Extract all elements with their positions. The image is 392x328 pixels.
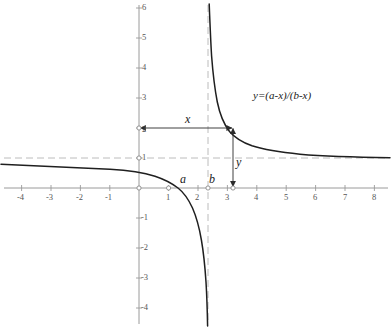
ytick-label-5: 5 [142, 32, 146, 42]
ytick-label--2: -2 [141, 242, 148, 252]
marker-x-1 [167, 186, 171, 190]
xtick-label-4: 4 [254, 192, 258, 202]
xtick-label-7: 7 [343, 192, 347, 202]
ytick-label-3: 3 [142, 92, 146, 102]
xtick-label--1: -1 [105, 192, 112, 202]
curve-right-branch [209, 4, 390, 158]
function-formula-label: y=(a-x)/(b-x) [253, 89, 311, 101]
xtick-label-6: 6 [313, 192, 317, 202]
xtick-label-1: 1 [166, 192, 170, 202]
xtick-label--2: -2 [76, 192, 83, 202]
ytick-label-4: 4 [142, 62, 146, 72]
marker-y-1 [137, 156, 141, 160]
function-graph-figure: -4 -3 -2 -1 1 2 3 4 5 6 7 8 6 5 4 3 2 1 … [0, 0, 392, 328]
ytick-label--3: -3 [141, 272, 148, 282]
xtick-label--4: -4 [17, 192, 24, 202]
xtick-label-5: 5 [284, 192, 288, 202]
ytick-label-6: 6 [142, 2, 146, 12]
marker-origin [137, 186, 141, 190]
xtick-label-8: 8 [372, 192, 376, 202]
xtick-label-2: 2 [195, 192, 199, 202]
curve-left-branch [1, 164, 208, 326]
asymptotes-group [4, 5, 388, 324]
measurement-arrows-group [141, 128, 234, 187]
y-measure-label: y [236, 155, 241, 170]
a-parameter-label: a [180, 172, 186, 187]
marker-y-2 [137, 126, 141, 130]
ytick-label-2: 2 [142, 124, 146, 134]
ytick-label-1: 1 [142, 152, 146, 162]
axes-group [4, 5, 388, 324]
marker-x-point [231, 186, 235, 190]
x-measure-label: x [185, 112, 190, 127]
xtick-label-3: 3 [225, 192, 229, 202]
graph-canvas [0, 0, 392, 328]
b-parameter-label: b [209, 172, 215, 187]
xtick-label--3: -3 [46, 192, 53, 202]
ytick-label--4: -4 [141, 302, 148, 312]
ytick-label--1: -1 [141, 212, 148, 222]
